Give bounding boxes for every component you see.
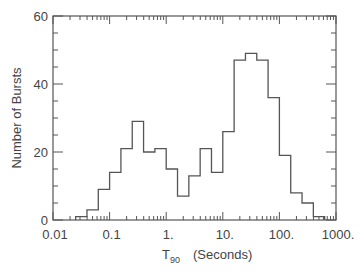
x-tick-labels: 0.010.11.10.100.1000. (42, 227, 354, 242)
svg-text:1000.: 1000. (322, 227, 355, 242)
svg-text:100.: 100. (269, 227, 294, 242)
svg-text:0.01: 0.01 (42, 227, 67, 242)
svg-text:10.: 10. (216, 227, 234, 242)
plot-frame (53, 16, 336, 220)
svg-text:20: 20 (34, 145, 48, 160)
y-tick-labels: 0204060 (34, 9, 48, 228)
svg-text:1.: 1. (163, 227, 174, 242)
svg-text:0.1: 0.1 (103, 227, 121, 242)
svg-text:0: 0 (41, 213, 48, 228)
svg-text:60: 60 (34, 9, 48, 24)
y-axis-label: Number of Bursts (9, 67, 24, 169)
histogram-step-line (76, 53, 325, 220)
svg-text:(Seconds): (Seconds) (193, 247, 252, 262)
svg-text:90: 90 (170, 255, 180, 265)
x-axis-label: T 90 (Seconds) (162, 247, 252, 265)
svg-text:40: 40 (34, 77, 48, 92)
svg-text:T: T (162, 247, 170, 262)
histogram-chart: 0204060 0.010.11.10.100.1000. Number of … (0, 0, 364, 272)
axis-ticks (53, 16, 336, 220)
chart-svg: 0204060 0.010.11.10.100.1000. Number of … (0, 0, 364, 272)
